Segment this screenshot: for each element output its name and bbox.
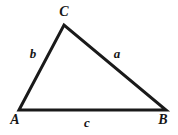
- side-label-a: a: [114, 47, 121, 60]
- vertex-label-c: C: [59, 5, 68, 19]
- triangle-diagram: C A B b a c: [0, 0, 178, 135]
- side-label-c: c: [84, 116, 90, 129]
- side-label-b: b: [30, 47, 37, 60]
- triangle-shape: [19, 25, 166, 110]
- vertex-label-b: B: [158, 113, 167, 127]
- vertex-label-a: A: [10, 113, 19, 127]
